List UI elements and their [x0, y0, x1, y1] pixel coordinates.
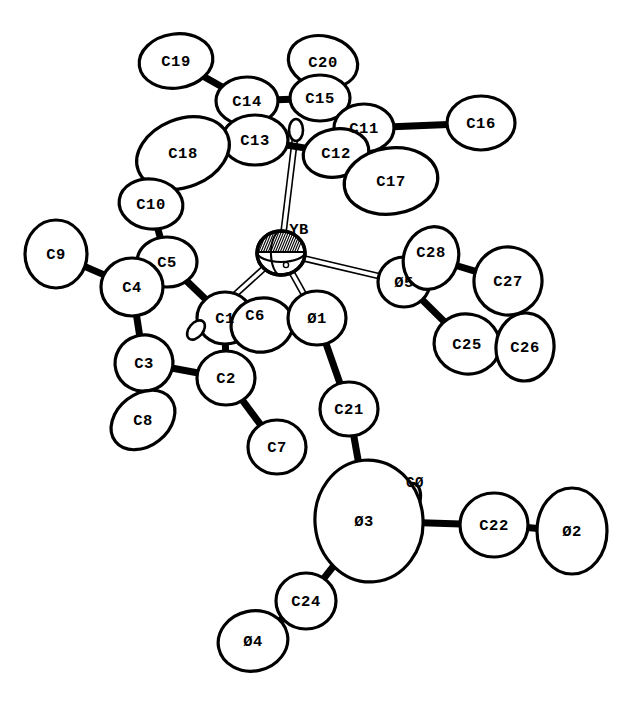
- atom-label-c9: C9: [46, 246, 66, 264]
- atom-label-c1: C1: [215, 310, 235, 328]
- atom-label-c10: C10: [136, 196, 165, 214]
- atom-label-c19: C19: [161, 53, 190, 71]
- atom-label-c0: CØ: [406, 475, 424, 491]
- ortep-figure: C19C20C14C15C11C16C13C12C18C17C10C9C5C4C…: [0, 0, 629, 702]
- atom-label-c3: C3: [134, 355, 154, 373]
- atom-label-c15: C15: [305, 90, 334, 108]
- bond-o3-c22: [421, 523, 461, 524]
- bond-c11-c16: [393, 124, 448, 126]
- atom-label-c7: C7: [267, 439, 287, 457]
- atom-label-o4: Ø4: [243, 633, 263, 651]
- atom-label-c16: C16: [466, 115, 495, 133]
- atom-label-c20: C20: [308, 54, 337, 72]
- atom-label-c8: C8: [133, 412, 153, 430]
- atom-label-o2: Ø2: [562, 523, 582, 541]
- molecular-structure-canvas: C19C20C14C15C11C16C13C12C18C17C10C9C5C4C…: [0, 0, 629, 702]
- atom-label-o3: Ø3: [354, 513, 374, 531]
- atom-label-c21: C21: [334, 401, 363, 419]
- atom-label-c27: C27: [493, 273, 522, 291]
- atom-label-c2: C2: [216, 370, 236, 388]
- bond-c4-c3: [136, 315, 139, 336]
- atom-label-c24: C24: [291, 593, 320, 611]
- atom-label-c12: C12: [321, 145, 350, 163]
- bond-c21-o3: [354, 435, 359, 463]
- atom-label-c17: C17: [376, 173, 405, 191]
- atom-label-c5: C5: [157, 254, 177, 272]
- atom-label-o5: Ø5: [394, 274, 414, 292]
- atom-label-c4: C4: [122, 279, 142, 297]
- atom-label-c11: C11: [349, 120, 378, 138]
- atom-label-c26: C26: [510, 339, 539, 357]
- atom-label-c14: C14: [232, 93, 261, 111]
- bond-c3-c2: [171, 368, 198, 373]
- atom-label-yb: YB: [289, 221, 309, 239]
- atom-label-c18: C18: [168, 145, 197, 163]
- atom-label-c22: C22: [479, 517, 508, 535]
- atom-label-o1: Ø1: [307, 310, 327, 328]
- atom-label-c25: C25: [452, 336, 481, 354]
- atom-label-c6: C6: [245, 307, 265, 325]
- atom-label-c13: C13: [240, 132, 269, 150]
- atom-ellipsoid-cp1: [289, 119, 303, 141]
- atom-label-c28: C28: [416, 244, 445, 262]
